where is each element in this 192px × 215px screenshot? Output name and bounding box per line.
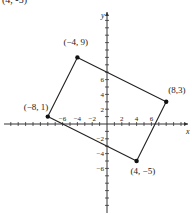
vertex-point: [75, 55, 79, 59]
x-tick-label: −2: [88, 115, 96, 123]
x-tick-label: 6: [150, 115, 154, 123]
y-tick-label: 4: [101, 91, 105, 99]
x-tick-label: −4: [74, 115, 82, 123]
y-axis-arrow-icon: [105, 12, 109, 16]
axes: xy: [4, 11, 190, 213]
axis-ticks: [11, 20, 181, 205]
x-tick-label: −6: [59, 115, 67, 123]
x-tick-label: 4: [135, 115, 139, 123]
vertex-point: [164, 100, 168, 104]
y-tick-label: −6: [97, 165, 105, 173]
vertex-point: [134, 159, 138, 163]
y-tick-label: 6: [101, 76, 105, 84]
vertex-label: (−4, 9): [63, 37, 88, 47]
vertex-point: [46, 114, 50, 118]
y-axis-label: y: [100, 11, 105, 20]
x-axis-label: x: [185, 127, 190, 136]
vertex-label: (−8, 1): [24, 102, 49, 112]
vertex-label: (4, −5): [131, 166, 156, 176]
y-tick-label: 2: [101, 106, 105, 114]
cropped-top-label: (4, -5): [2, 0, 27, 6]
vertex-label: (8,3): [168, 85, 185, 95]
x-tick-label: 2: [120, 115, 124, 123]
y-tick-label: −4: [97, 150, 105, 158]
x-axis-arrow-icon: [184, 122, 188, 126]
vertex-labels: (−4, 9)(8,3)(4, −5)(−8, 1): [24, 37, 186, 176]
coordinate-plane: xy −6−4−2246642−2−4−6 (−4, 9)(8,3)(4, −5…: [0, 0, 192, 215]
